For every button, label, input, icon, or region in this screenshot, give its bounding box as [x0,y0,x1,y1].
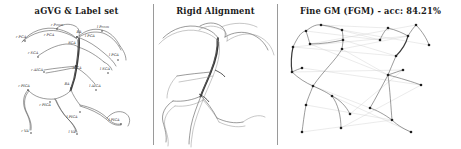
vessel-label: r PICA [18,84,30,88]
vessel-label: l VA [68,130,75,134]
vessel-label: r AICA [31,68,43,72]
vessel-label: r VA [21,129,29,133]
vessel-label: l PICA [66,115,77,119]
panel-fine-gm: Fine GM (FGM) - acc: 84.21% [280,0,461,149]
vessel-label: r PICA [39,103,51,107]
vessel-label: r Pcom [51,23,64,27]
panel-agvg-label-set: aGVG & Label set [0,0,153,149]
vessel-label: SCA [68,41,76,45]
vessel-label: l PCA [109,53,119,57]
correspondence-lines [292,25,429,132]
fine-gm-correspondence-drawing [280,0,461,149]
vessel-label: l Pcom [97,25,109,29]
figure-vascular-graph-matching: aGVG & Label set [0,0,461,149]
rigid-alignment-drawing [155,0,276,149]
graph-node-group [291,24,431,134]
panel-divider [277,4,278,145]
agvg-vessel-drawing [0,0,153,149]
vessel-label: BA [76,30,81,34]
vessel-label: r PCA [44,33,54,37]
panel-divider [153,4,154,145]
vessel-label: l AICA [89,84,100,88]
vessel-label: r PCA [16,35,26,39]
vessel-label: BA [64,82,69,86]
vessel-label: l PICA [108,118,119,122]
panel-rigid-alignment: Rigid Alignment [155,0,276,149]
vessel-label: l PCA [85,34,95,38]
vessel-label: r SCA [28,51,38,55]
vessel-label: l SCA [100,67,110,71]
vessel-label: AICA [72,66,81,70]
